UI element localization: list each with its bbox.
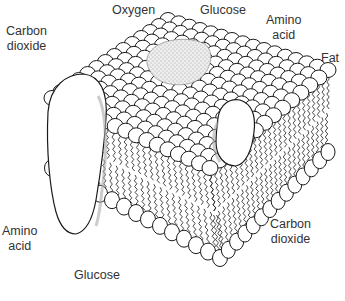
lipid-tail [302,134,305,168]
lipid-tail [321,117,324,150]
lipid-tail [265,168,270,203]
lipid-tail [283,151,287,186]
label-line: Glucose [74,268,120,283]
lipid-tail [223,207,229,244]
lipid-tail [246,185,251,221]
lipid-tail [302,96,305,130]
lipid-tail [298,101,301,135]
lipid-tail [254,137,259,173]
lipid-tail [219,166,225,203]
lipid-tail [128,172,132,204]
lipid-head [202,161,218,176]
label-fat: Fat [321,51,339,66]
lipid-tail [322,80,325,113]
label-glucose-top: Glucose [200,3,246,18]
lipid-tail [109,163,113,194]
lipid-tail [115,166,119,197]
lipid-tail [166,190,171,224]
lipid-tail [316,122,319,155]
lipid-tail [283,113,287,148]
lipid-tail [161,153,166,187]
label-amino-acid-top: Amino acid [266,13,301,43]
lipid-tail [118,134,122,165]
lipid-tail [160,187,165,221]
lipid-tail [173,158,178,193]
lipid-tail [232,198,238,234]
label-line: dioxide [6,39,47,54]
lipid-tail [136,142,141,174]
lipid-tail [149,147,154,180]
lipid-tail [251,181,256,217]
label-oxygen: Oxygen [112,3,155,18]
lipid-tail [317,84,320,117]
lipid-tail [210,174,216,211]
lipid-tail [191,166,197,202]
lipid-tail [155,150,160,184]
lipid-tail [307,130,310,164]
label-line: Carbon [270,217,311,232]
lipid-tail [237,194,242,230]
protein-channel-small [216,100,254,166]
lipid-tail [268,125,272,160]
lipid-tail [197,206,203,242]
lipid-tail [279,156,283,191]
lipid-tail [210,174,216,211]
label-line: Amino [2,224,37,239]
lipid-tail [153,184,158,217]
label-line: Glucose [200,3,246,18]
lipid-tail [260,173,265,208]
lipid-tail [204,209,210,245]
label-line: Amino [266,13,301,28]
lipid-tail [130,139,134,171]
lipid-tail [172,194,177,228]
lipid-tail [274,160,278,195]
lipid-tail [147,181,152,214]
lipid-tail [134,175,138,207]
label-line: Oxygen [112,3,155,18]
label-line: acid [266,28,301,43]
lipid-tail [197,169,203,205]
lipid-tail [325,113,327,146]
lipid-tail [191,203,197,239]
lipid-tail [297,139,300,173]
label-line: Fat [321,51,339,66]
lipid-tail [124,136,128,168]
lipid-tail [179,161,184,196]
lipid-tail [273,121,277,156]
lipid-tail [269,164,273,199]
lipid-tail [204,171,210,208]
lipid-tail [122,169,126,200]
label-line: dioxide [270,232,311,247]
lipid-tail [293,143,297,177]
lipid-tail [112,131,116,162]
lipid-tail [167,155,172,189]
lipid-tail [259,133,264,168]
lipid-tail [278,117,282,152]
lipid-tail [293,105,297,139]
lipid-tail [312,88,315,122]
lipid-tail [288,147,292,181]
lipid-tail [255,177,260,213]
lipid-tail [327,76,329,109]
lipid-tail [263,129,268,164]
lipid-tail [224,162,230,199]
label-glucose-bottom: Glucose [74,268,120,283]
lipid-tail [227,202,233,239]
lipid-tail [241,190,246,226]
lipid-tail [185,163,191,199]
membrane-diagram [0,0,345,301]
lipid-tail [185,200,191,235]
label-line: acid [2,239,37,254]
lipid-tail [141,178,146,210]
lipid-tail [215,170,221,207]
lipid-tail [143,144,148,177]
lipid-tail [178,197,183,232]
label-carbon-dioxide-top: Carbon dioxide [6,24,47,54]
lipid-head [321,144,335,161]
label-carbon-dioxide-bottom: Carbon dioxide [270,217,311,247]
label-line: Carbon [6,24,47,39]
lipid-tail [311,126,314,160]
label-amino-acid-bottom: Amino acid [2,224,37,254]
lipid-tail [307,92,310,126]
lipid-tail [288,109,292,143]
